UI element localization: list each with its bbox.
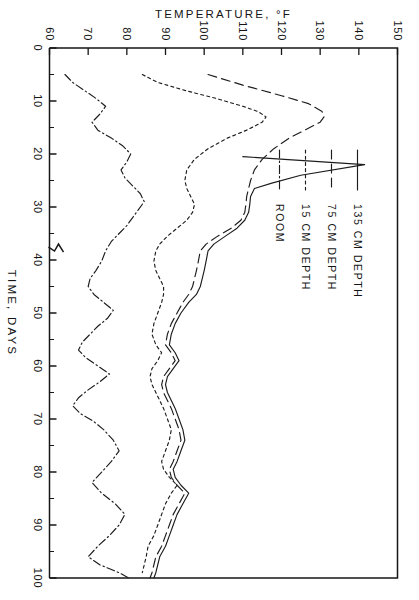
x-tick-label: 30 bbox=[31, 200, 43, 214]
x-tick-label: 70 bbox=[31, 412, 43, 426]
x-tick-label: 20 bbox=[31, 147, 43, 161]
series-line bbox=[142, 75, 266, 573]
y-axis-title: TEMPERATURE, °F bbox=[154, 8, 291, 20]
legend-entry-label: ROOM bbox=[273, 204, 285, 243]
y-tick-label: 90 bbox=[159, 27, 171, 41]
legend-entry-label: 15 CM DEPTH bbox=[299, 204, 311, 291]
y-tick-label: 140 bbox=[352, 21, 364, 41]
legend-entry-label: 135 CM DEPTH bbox=[351, 204, 363, 298]
y-tick-label: 110 bbox=[236, 21, 248, 41]
x-tick-label: 40 bbox=[31, 253, 43, 267]
legend-entry-label: 75 CM DEPTH bbox=[325, 204, 337, 291]
y-tick-label: 130 bbox=[314, 21, 326, 41]
temperature-vs-time-chart: 0102030405060708090100 60708090100110120… bbox=[0, 0, 419, 600]
plot-frame bbox=[49, 48, 397, 578]
x-tick-label: 90 bbox=[31, 518, 43, 532]
x-tick-label: 60 bbox=[31, 359, 43, 373]
data-series-group bbox=[64, 75, 364, 579]
x-tick-label: 50 bbox=[31, 306, 43, 320]
x-tick-label: 80 bbox=[31, 465, 43, 479]
y-axis: 60708090100110120130140150 bbox=[43, 21, 403, 55]
axis-titles: TIME, DAYSTEMPERATURE, °F bbox=[5, 8, 292, 356]
x-axis: 0102030405060708090100 bbox=[31, 45, 63, 589]
y-tick-label: 70 bbox=[82, 27, 94, 41]
plot-area: 0102030405060708090100 60708090100110120… bbox=[0, 0, 419, 600]
y-tick-label: 60 bbox=[43, 27, 55, 41]
y-tick-label: 150 bbox=[391, 21, 403, 41]
x-tick-label: 100 bbox=[31, 568, 43, 588]
series-line bbox=[64, 75, 143, 579]
figure-stage: 0102030405060708090100 60708090100110120… bbox=[0, 0, 419, 600]
plot-border bbox=[49, 48, 397, 578]
y-tick-label: 120 bbox=[275, 21, 287, 41]
series-line bbox=[150, 75, 324, 579]
y-tick-label: 80 bbox=[120, 27, 132, 41]
x-tick-label: 10 bbox=[31, 94, 43, 108]
x-tick-label: 0 bbox=[31, 45, 43, 52]
y-tick-label: 100 bbox=[198, 21, 210, 41]
x-axis-title: TIME, DAYS bbox=[5, 270, 17, 356]
